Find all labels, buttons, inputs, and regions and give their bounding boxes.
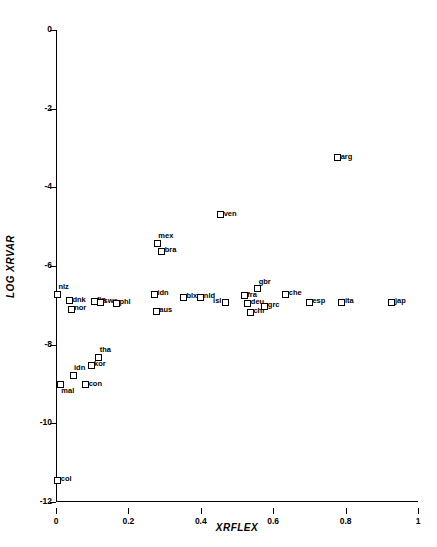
data-point-label: dnk <box>72 296 85 304</box>
data-point-label: idn <box>74 364 85 372</box>
x-axis-title-text: XRFLEX <box>216 522 258 533</box>
data-point-label: idn <box>157 289 168 297</box>
y-tick-label: -4 <box>44 181 52 191</box>
data-point-label: blx <box>186 292 197 300</box>
y-axis-title-text: LOG XRVAR <box>6 234 17 297</box>
data-point-label: arg <box>341 153 353 161</box>
x-tick-mark <box>56 508 57 514</box>
x-tick-mark <box>418 508 419 514</box>
y-axis-title: LOG XRVAR <box>4 30 18 502</box>
data-point-label: col <box>61 475 72 483</box>
data-point-label: gbr <box>259 278 271 286</box>
data-point-label: mex <box>158 232 173 240</box>
data-point-label: tha <box>100 346 111 354</box>
x-axis-title: XRFLEX <box>56 522 418 533</box>
data-point-label: grc <box>268 301 280 309</box>
data-point-label: ita <box>345 297 354 305</box>
y-tick-label: -6 <box>44 260 52 270</box>
data-point-label: bra <box>165 246 177 254</box>
square-marker-icon <box>222 299 229 306</box>
data-point-label: kor <box>94 360 106 368</box>
data-point-label: mal <box>61 387 74 395</box>
square-marker-icon <box>70 372 77 379</box>
scatter-plot-figure: LOG XRVAR 0-2-4-6-8-10-12 00.20.40.60.81… <box>0 0 437 547</box>
data-point-label: nor <box>74 304 86 312</box>
y-tick-label: -2 <box>44 103 52 113</box>
data-point-label: ven <box>224 210 237 218</box>
data-point-label: aus <box>159 306 172 314</box>
x-tick-mark <box>201 508 202 514</box>
square-marker-icon <box>254 285 261 292</box>
plot-area: 0-2-4-6-8-10-12 00.20.40.60.81 colmalidn… <box>56 30 418 502</box>
x-tick-mark <box>128 508 129 514</box>
x-tick-mark <box>273 508 274 514</box>
square-marker-icon <box>154 240 161 247</box>
data-point-label: nlz <box>58 283 68 291</box>
y-tick-label: -8 <box>44 339 52 349</box>
data-point-label: esp <box>312 297 325 305</box>
data-point-label: phl <box>119 298 130 306</box>
y-tick-label: -12 <box>40 496 52 506</box>
square-marker-icon <box>54 291 61 298</box>
data-point-label: che <box>289 289 302 297</box>
y-tick-label: -10 <box>40 417 52 427</box>
x-tick-mark <box>346 508 347 514</box>
data-point-label: jap <box>395 297 406 305</box>
y-axis-spine <box>56 30 57 502</box>
y-tick-label: 0 <box>47 24 52 34</box>
square-marker-icon <box>95 354 102 361</box>
data-point-label: con <box>89 380 102 388</box>
x-axis-spine <box>56 501 418 502</box>
data-point-label: isl <box>213 297 221 305</box>
